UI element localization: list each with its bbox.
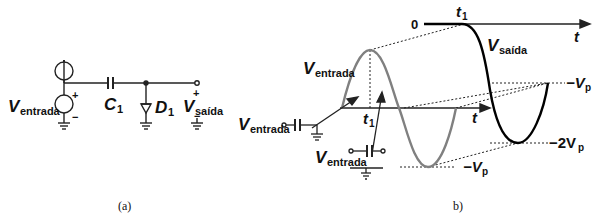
caption-a: (a)	[118, 199, 131, 213]
output-wave-label-sub: saída	[499, 44, 528, 56]
level-minus-vp-bottom-sub: p	[482, 166, 488, 177]
level-minus-vp-right: −V	[566, 74, 587, 91]
inset1-label-sub: entrada	[250, 123, 291, 135]
source-minus: −	[72, 111, 78, 123]
output-terminal	[195, 81, 199, 85]
source-plus: +	[72, 89, 78, 101]
source-label-sub: entrada	[20, 105, 61, 117]
capacitor-label: C	[104, 95, 117, 114]
diode-label-sub: 1	[168, 106, 174, 118]
level-minus-vp-right-sub: p	[585, 82, 591, 93]
input-wave-label-sub: entrada	[315, 67, 356, 79]
output-axis-zero: 0	[411, 17, 418, 32]
t-top-label: t	[574, 28, 580, 45]
capacitor-label-sub: 1	[117, 103, 123, 115]
t1-mid-label-sub: 1	[369, 118, 375, 129]
caption-b: b)	[453, 199, 463, 213]
projection-lines	[370, 24, 565, 167]
level-minus-2vp-sub: p	[578, 142, 584, 153]
diode-label: D	[155, 98, 167, 117]
level-minus-2vp: −2V	[549, 134, 576, 151]
diode-icon	[141, 104, 151, 113]
ground-icon	[58, 118, 203, 129]
output-minus: −	[194, 110, 200, 122]
clamp-circuit-figure: V entrada + − C 1 D 1 + V saída − (a)	[0, 0, 595, 221]
inset2-label-sub: entrada	[327, 156, 368, 168]
t-mid-label: t	[472, 109, 478, 126]
level-minus-vp-bottom: −V	[463, 158, 484, 175]
t1-top-label-sub: 1	[462, 11, 468, 22]
